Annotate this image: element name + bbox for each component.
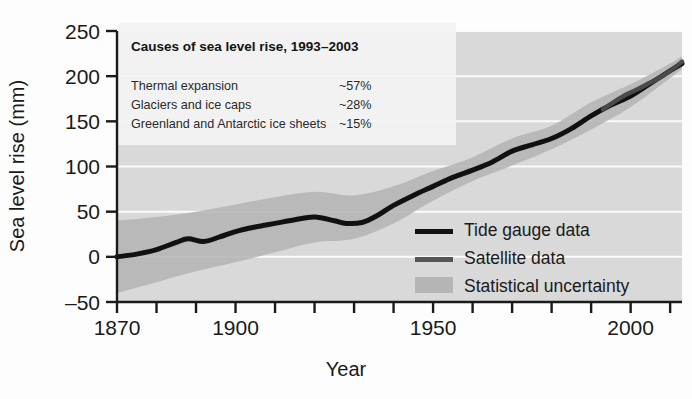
- annotation-box: Causes of sea level rise, 1993–2003 Ther…: [118, 23, 456, 145]
- legend-swatch-tide-gauge: [415, 229, 453, 234]
- y-tick-label: –50: [65, 291, 100, 314]
- y-tick-label: 250: [65, 20, 100, 43]
- annotation-row-label-2: Greenland and Antarctic ice sheets: [131, 117, 326, 131]
- x-tick-label: 1870: [94, 316, 141, 339]
- x-axis-ticks: 1870190019502000: [94, 302, 671, 339]
- x-axis-title: Year: [326, 358, 367, 380]
- legend-label-satellite: Satellite data: [464, 248, 565, 268]
- legend-swatch-uncertainty: [415, 277, 453, 293]
- legend-swatch-satellite: [415, 257, 453, 262]
- annotation-row-value-2: ~15%: [339, 117, 372, 131]
- x-tick-label: 1900: [212, 316, 259, 339]
- y-axis-title: Sea level rise (mm): [6, 80, 28, 252]
- annotation-row-label-0: Thermal expansion: [131, 79, 238, 93]
- legend-label-uncertainty: Statistical uncertainty: [464, 276, 630, 296]
- annotation-box-title: Causes of sea level rise, 1993–2003: [131, 39, 359, 54]
- y-tick-label: 100: [65, 155, 100, 178]
- sea-level-chart: Causes of sea level rise, 1993–2003 Ther…: [0, 0, 692, 399]
- annotation-row-label-1: Glaciers and ice caps: [131, 98, 251, 112]
- x-tick-label: 1950: [410, 316, 457, 339]
- x-tick-label: 2000: [607, 316, 654, 339]
- y-axis-ticks: –50050100150200250: [65, 20, 117, 314]
- y-tick-label: 0: [88, 245, 100, 268]
- annotation-row-value-0: ~57%: [339, 79, 372, 93]
- y-tick-label: 50: [77, 200, 100, 223]
- chart-figure: Causes of sea level rise, 1993–2003 Ther…: [0, 0, 692, 399]
- y-tick-label: 200: [65, 65, 100, 88]
- annotation-row-value-1: ~28%: [339, 98, 372, 112]
- legend-label-tide-gauge: Tide gauge data: [464, 220, 590, 240]
- y-tick-label: 150: [65, 110, 100, 133]
